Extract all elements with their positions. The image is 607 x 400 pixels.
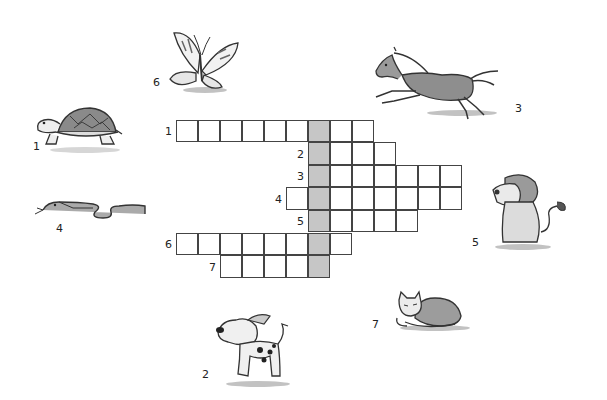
grid-cell[interactable]	[264, 233, 286, 256]
grid-cell[interactable]	[286, 233, 308, 256]
grid-cell[interactable]	[242, 255, 264, 278]
clue-number-7: 7	[209, 262, 216, 273]
animal-number-4: 4	[56, 222, 63, 235]
grid-cell[interactable]	[286, 255, 308, 278]
grid-cell[interactable]	[418, 165, 440, 188]
animal-number-5: 5	[472, 236, 479, 249]
grid-cell[interactable]	[176, 120, 198, 143]
animal-number-2: 2	[202, 368, 209, 381]
animal-number-6: 6	[153, 76, 160, 89]
grid-cell[interactable]	[374, 142, 396, 165]
grid-cell[interactable]	[198, 233, 220, 256]
dog-icon	[208, 310, 298, 390]
turtle-icon	[30, 100, 125, 155]
cat-icon	[385, 288, 475, 333]
grid-cell[interactable]	[198, 120, 220, 143]
grid-cell[interactable]	[220, 255, 242, 278]
grid-cell[interactable]	[352, 165, 374, 188]
grid-cell[interactable]	[308, 187, 330, 210]
snake-icon	[33, 192, 153, 222]
grid-cell[interactable]	[352, 187, 374, 210]
grid-cell[interactable]	[352, 142, 374, 165]
grid-cell[interactable]	[286, 187, 308, 210]
clue-number-2: 2	[297, 149, 304, 160]
lion-icon	[485, 172, 580, 252]
grid-cell[interactable]	[242, 120, 264, 143]
clue-number-5: 5	[297, 216, 304, 227]
horse-icon	[372, 45, 507, 125]
clue-number-6: 6	[165, 239, 172, 250]
grid-cell[interactable]	[374, 165, 396, 188]
animal-number-3: 3	[515, 102, 522, 115]
grid-cell[interactable]	[220, 233, 242, 256]
grid-cell[interactable]	[396, 165, 418, 188]
clue-number-3: 3	[297, 171, 304, 182]
grid-cell[interactable]	[308, 210, 330, 233]
grid-cell[interactable]	[286, 120, 308, 143]
grid-cell[interactable]	[330, 233, 352, 256]
grid-cell[interactable]	[440, 165, 462, 188]
grid-cell[interactable]	[330, 165, 352, 188]
grid-cell[interactable]	[352, 120, 374, 143]
grid-cell[interactable]	[330, 187, 352, 210]
clue-number-1: 1	[165, 126, 172, 137]
grid-cell[interactable]	[330, 120, 352, 143]
grid-cell[interactable]	[242, 233, 264, 256]
grid-cell[interactable]	[308, 120, 330, 143]
animal-number-7: 7	[372, 318, 379, 331]
grid-cell[interactable]	[330, 210, 352, 233]
grid-cell[interactable]	[308, 165, 330, 188]
animal-number-1: 1	[33, 140, 40, 153]
grid-cell[interactable]	[176, 233, 198, 256]
grid-cell[interactable]	[308, 233, 330, 256]
grid-cell[interactable]	[374, 210, 396, 233]
grid-cell[interactable]	[308, 142, 330, 165]
grid-cell[interactable]	[396, 210, 418, 233]
grid-cell[interactable]	[352, 210, 374, 233]
grid-cell[interactable]	[220, 120, 242, 143]
butterfly-icon	[160, 25, 245, 95]
grid-cell[interactable]	[418, 187, 440, 210]
grid-cell[interactable]	[264, 120, 286, 143]
clue-number-4: 4	[275, 194, 282, 205]
grid-cell[interactable]	[330, 142, 352, 165]
grid-cell[interactable]	[374, 187, 396, 210]
grid-cell[interactable]	[440, 187, 462, 210]
grid-cell[interactable]	[308, 255, 330, 278]
grid-cell[interactable]	[396, 187, 418, 210]
grid-cell[interactable]	[264, 255, 286, 278]
